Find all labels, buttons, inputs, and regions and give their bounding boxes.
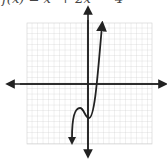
graph: [0, 0, 167, 161]
